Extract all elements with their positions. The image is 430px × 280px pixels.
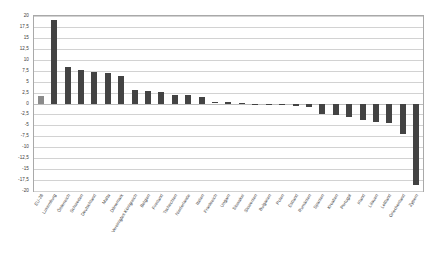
bar-slot [195,16,208,191]
bar[interactable] [145,91,151,104]
bar[interactable] [279,104,285,106]
plot-area [33,15,424,192]
y-axis-tick-label: 12,5 [20,45,29,50]
bar[interactable] [51,20,57,103]
x-label-slot: Deutschland [87,193,100,273]
bar[interactable] [346,104,352,118]
bar-slot [369,16,382,191]
y-axis-tick-label: 7,5 [22,67,29,72]
bar[interactable] [199,97,205,104]
bar-slot [396,16,409,191]
bar-slot [114,16,127,191]
x-axis-tick-label-text: Italien [194,193,205,206]
bar[interactable] [158,92,164,104]
bar-slot [34,16,47,191]
y-axis-tick-label: -7,5 [21,133,29,138]
x-label-slot: Niederlande [181,193,194,273]
bar[interactable] [333,104,339,115]
bar-slot [302,16,315,191]
x-axis-tick-label-text: Polen [275,193,285,205]
y-axis-tick-label: 15 [24,34,29,39]
bar-slot [88,16,101,191]
bar-slot [275,16,288,191]
bar[interactable] [252,104,258,105]
bar[interactable] [386,104,392,124]
x-axis-tick-label-text: Lettland [380,193,393,209]
bar-slot [222,16,235,191]
x-axis-tick-label-text: Spanien [313,193,326,210]
bar[interactable] [172,95,178,103]
x-label-slot: Luxemburg [46,193,59,273]
bar[interactable] [225,102,231,103]
bar-slot [249,16,262,191]
bar[interactable] [78,70,84,104]
y-axis-tick-label: 20 [24,13,29,18]
bar-slot [383,16,396,191]
y-axis-tick-label: 17,5 [20,23,29,28]
bar[interactable] [91,72,97,103]
bar-slot [343,16,356,191]
bar[interactable] [306,104,312,108]
y-axis-tick-label: 10 [24,56,29,61]
x-label-slot: Dänemark [113,193,126,273]
x-label-slot: Griechenland [395,193,408,273]
bar[interactable] [118,76,124,103]
bar-slot [262,16,275,191]
x-label-slot: Bulgarien [261,193,274,273]
x-axis-tick-label-text: Estland [287,193,299,208]
bar-slot [61,16,74,191]
bar-slot [208,16,221,191]
bar[interactable] [105,73,111,103]
bar[interactable] [132,90,138,104]
bar-slot [410,16,423,191]
bar-slot [128,16,141,191]
bars-layer [34,16,423,191]
x-axis-tick-label-text: Zypern [408,193,420,208]
bar-slot [329,16,342,191]
bar[interactable] [239,103,245,104]
x-axis-tick-label-text: Malta [101,193,111,205]
x-axis-tick-label-text: Litauen [367,193,379,208]
bar-chart: 2017,51512,5107,552,50-2,5-5-7,5-10-12,5… [0,0,430,280]
bar[interactable] [38,96,44,103]
bar-slot [316,16,329,191]
x-axis-tick-label-text: Irland [356,193,366,205]
x-axis-tick-label-text: Ungarn [220,193,232,208]
bar[interactable] [360,104,366,120]
y-axis-tick-label: -20 [22,188,29,193]
bar[interactable] [373,104,379,123]
y-axis-tick-label: -15 [22,166,29,171]
y-axis-tick-label: 2,5 [22,89,29,94]
y-axis-tick-label: -17,5 [18,177,29,182]
x-axis-tick-label-text: Kroatien [326,193,339,210]
x-label-slot: Polen [274,193,287,273]
x-axis-tick-label-text: EU-28 [33,193,44,206]
bar-slot [74,16,87,191]
bar-slot [168,16,181,191]
bar-slot [182,16,195,191]
x-axis-tick-label-text: Portugal [339,193,352,210]
bar-slot [101,16,114,191]
bar[interactable] [293,104,299,107]
y-axis: 2017,51512,5107,552,50-2,5-5-7,5-10-12,5… [0,15,32,192]
y-axis-tick-label: -12,5 [18,155,29,160]
y-axis-tick-label: -10 [22,144,29,149]
y-axis-tick-label: -2,5 [21,111,29,116]
x-axis-tick-label-text: Finnland [151,193,164,210]
bar-slot [235,16,248,191]
x-label-slot: Zypern [409,193,422,273]
bar[interactable] [400,104,406,134]
bar[interactable] [266,104,272,105]
bar[interactable] [185,95,191,103]
y-axis-tick-label: -5 [25,122,29,127]
x-axis-labels: EU-28LuxemburgÖsterreichSchwedenDeutschl… [33,193,424,273]
x-label-slot: Portugal [342,193,355,273]
bar[interactable] [65,67,71,103]
x-axis-tick-label-text: Belgien [139,193,151,208]
bar-slot [47,16,60,191]
bar[interactable] [319,104,325,115]
y-axis-tick-label: 0 [26,100,29,105]
bar-slot [356,16,369,191]
y-axis-tick-label: 5 [26,78,29,83]
bar[interactable] [212,102,218,104]
